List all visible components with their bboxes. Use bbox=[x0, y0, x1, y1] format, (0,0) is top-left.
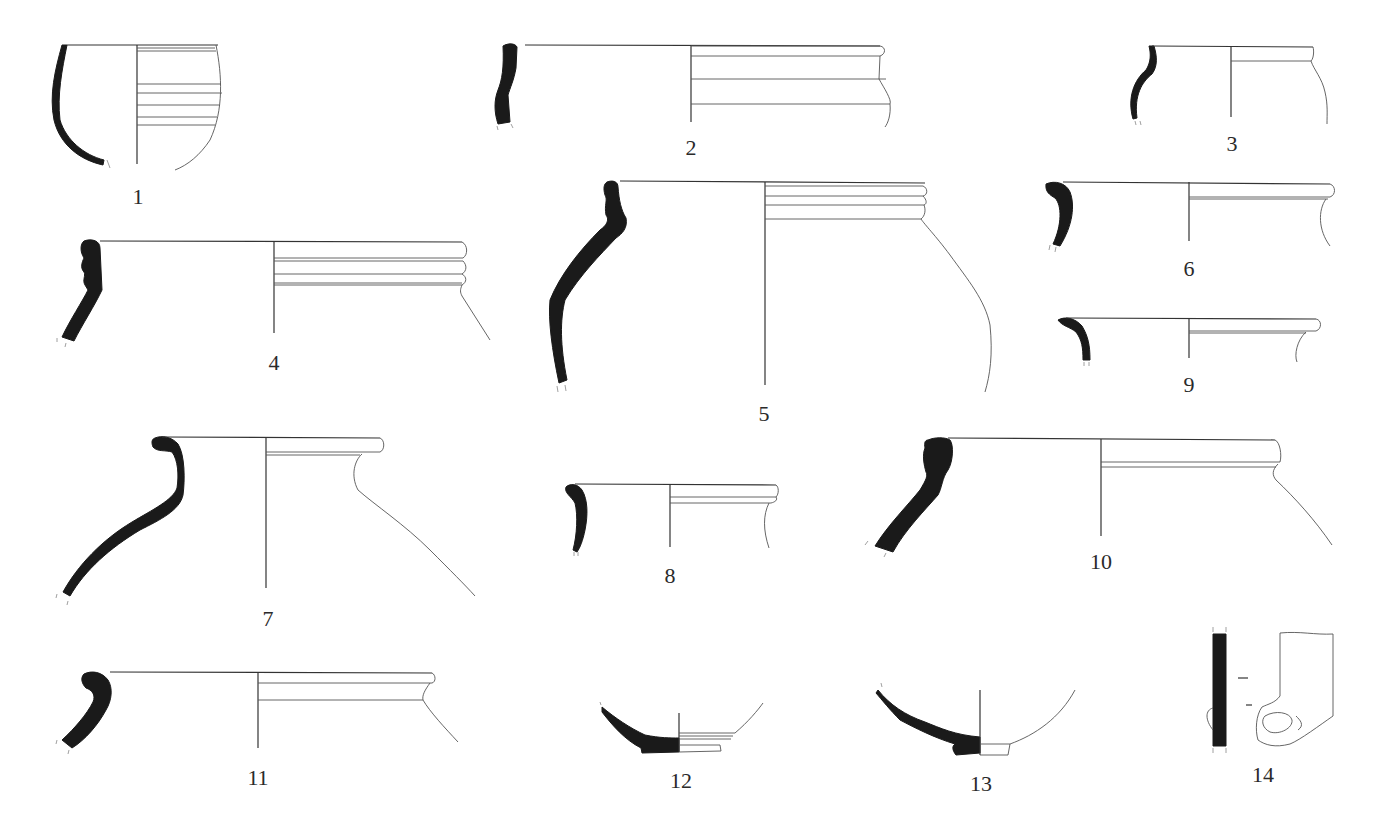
figure-label-14: 14 bbox=[1252, 764, 1274, 786]
figure-label-7: 7 bbox=[263, 608, 274, 630]
fig9-section bbox=[1058, 318, 1090, 360]
fig7-section bbox=[63, 437, 184, 596]
fig4-section bbox=[62, 240, 102, 341]
figure-13-base bbox=[876, 683, 1075, 755]
figure-label-8: 8 bbox=[665, 565, 676, 587]
figure-12-base bbox=[600, 702, 763, 753]
pottery-plate bbox=[0, 0, 1388, 836]
figure-label-3: 3 bbox=[1227, 133, 1238, 155]
figure-11-jar bbox=[56, 672, 458, 754]
figure-label-9: 9 bbox=[1184, 374, 1195, 396]
figure-8-jar bbox=[566, 484, 779, 556]
figure-label-2: 2 bbox=[686, 137, 697, 159]
figure-4-jar bbox=[57, 240, 490, 347]
figure-10-jar bbox=[865, 438, 1332, 557]
figure-label-6: 6 bbox=[1184, 258, 1195, 280]
figure-label-4: 4 bbox=[269, 352, 280, 374]
figure-label-1: 1 bbox=[133, 186, 144, 208]
figure-6-jar bbox=[1046, 182, 1335, 252]
figure-label-11: 11 bbox=[247, 767, 268, 789]
figure-label-13: 13 bbox=[970, 773, 992, 795]
figure-14-fragment bbox=[1207, 627, 1333, 753]
fig12-section bbox=[602, 707, 679, 753]
figure-3-jar bbox=[1131, 46, 1327, 125]
fig11-section bbox=[62, 672, 111, 748]
fig13-section bbox=[876, 690, 980, 755]
fig6-section bbox=[1046, 182, 1073, 246]
fig10-section bbox=[875, 438, 952, 552]
fig14-section bbox=[1213, 634, 1226, 746]
fig8-section bbox=[566, 485, 587, 552]
figure-7-jar bbox=[56, 437, 475, 605]
fig3-section bbox=[1131, 46, 1157, 119]
figure-5-globular-jar bbox=[549, 181, 991, 392]
figure-9-rim bbox=[1058, 318, 1321, 366]
fig5-section bbox=[549, 181, 626, 383]
fig1-section bbox=[52, 45, 104, 165]
figure-label-10: 10 bbox=[1090, 551, 1112, 573]
figure-1-bowl bbox=[52, 45, 222, 170]
figure-label-5: 5 bbox=[759, 403, 770, 425]
figure-2-jar bbox=[495, 44, 890, 130]
figure-label-12: 12 bbox=[670, 770, 692, 792]
fig2-section bbox=[495, 44, 517, 124]
